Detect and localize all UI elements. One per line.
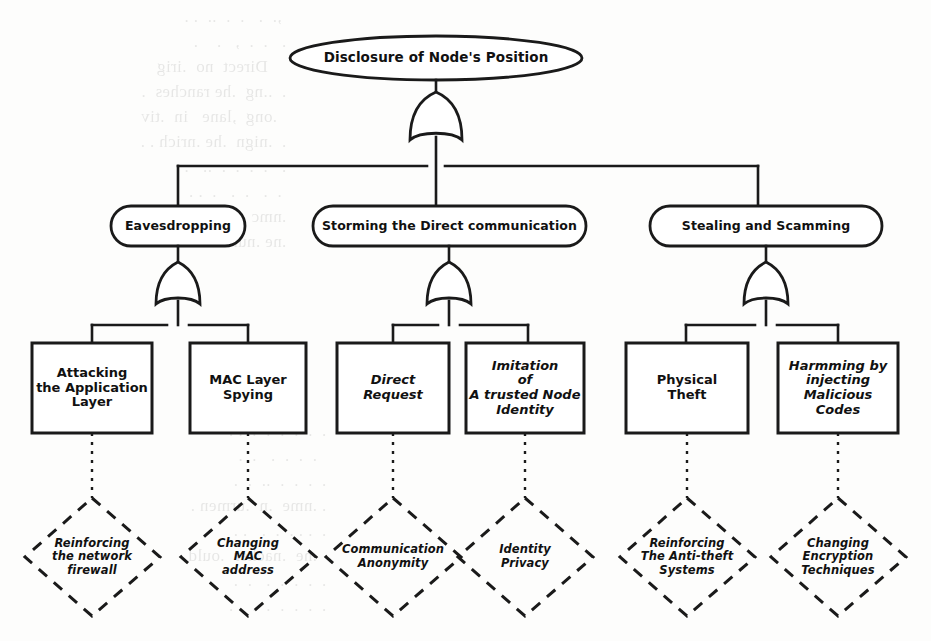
node-attacking-application-layer-label: Attacking the Application Layer: [26, 343, 158, 433]
node-harmming-label: Harmming by injecting Malicious Codes: [774, 343, 902, 433]
or-gate-stealing: [744, 262, 788, 304]
node-identity-privacy-label: Identity Privacy: [465, 526, 585, 588]
node-eavesdropping-label: Eavesdropping: [111, 206, 245, 246]
node-direct-request-label: Direct Request: [337, 343, 449, 433]
node-reinforcing-network-firewall-label: Reinforcing the network firewall: [32, 521, 152, 593]
or-gate-storming: [427, 262, 471, 304]
node-mac-layer-spying-label: MAC Layer Spying: [190, 343, 306, 433]
node-imitation-label: Imitation of A trusted Node Identity: [462, 343, 588, 433]
or-gate-root: [410, 92, 462, 140]
node-changing-mac-address-label: Changing MAC address: [188, 521, 308, 593]
node-storming-label: Storming the Direct communication: [313, 206, 586, 246]
node-root-label: Disclosure of Node's Position: [290, 36, 582, 80]
node-communication-anonymity-label: Communication Anonymity: [327, 526, 459, 588]
attack-tree-diagram: ,. . . . .. . . . . . , . . Direct no .i…: [0, 0, 931, 641]
node-reinforcing-anti-theft-systems-label: Reinforcing The Anti-theft Systems: [624, 521, 750, 593]
node-physical-theft-label: Physical Theft: [626, 343, 748, 433]
node-changing-encryption-techniques-label: Changing Encryption Techniques: [778, 521, 898, 593]
node-stealing-label: Stealing and Scamming: [650, 206, 882, 246]
or-gate-eavesdropping: [156, 262, 200, 304]
